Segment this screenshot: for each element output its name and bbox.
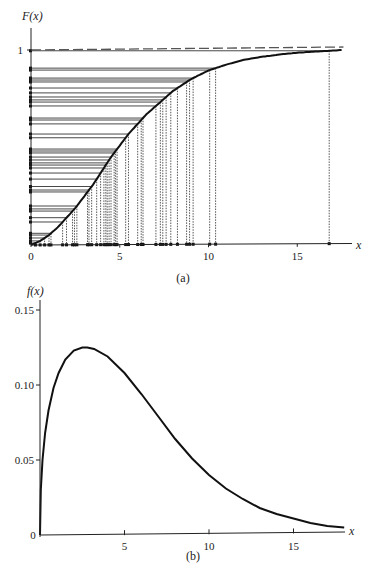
pdf-curve — [40, 348, 344, 536]
y-tick-label-a: 1 — [18, 44, 24, 56]
panel-a-cdf: 051015 1 F(x) x (a) — [18, 9, 363, 285]
x-tick-label-b: 10 — [204, 540, 216, 552]
x-tick-label-a: 0 — [28, 250, 34, 262]
y-tick-label-b: 0.10 — [15, 379, 35, 391]
x-tick-label-b: 15 — [288, 540, 300, 552]
caption-a: (a) — [176, 271, 189, 285]
panel-b-pdf: 051015 0.050.100.15 f(x) x (b) — [15, 284, 355, 563]
x-tick-label-b: 0 — [30, 529, 36, 541]
x-tick-label-b: 5 — [122, 540, 128, 552]
caption-b: (b) — [186, 549, 200, 563]
y-ticks-b: 0.050.100.15 — [15, 304, 40, 466]
x-axis-title-b: x — [348, 524, 355, 538]
x-axis-a — [31, 244, 352, 246]
x-tick-label-a: 10 — [203, 250, 215, 262]
x-ticks-a: 051015 — [28, 244, 303, 262]
x-ticks-b: 051015 — [30, 528, 299, 552]
y-axis-title-a: F(x) — [21, 9, 43, 23]
y-axis-title-b: f(x) — [27, 284, 44, 298]
y-tick-label-b: 0.15 — [15, 304, 35, 316]
x-axis-title-a: x — [355, 238, 362, 252]
sample-lines — [29, 49, 331, 246]
figure: 051015 1 F(x) x (a) 051015 0.050.100.15 … — [0, 0, 372, 575]
x-tick-label-a: 5 — [117, 250, 123, 262]
asymptote-dashed-line — [31, 47, 343, 50]
x-tick-label-a: 15 — [292, 250, 304, 262]
y-ticks-a: 1 — [18, 44, 32, 56]
y-tick-label-b: 0.05 — [15, 454, 35, 466]
x-axis-b — [40, 532, 345, 535]
